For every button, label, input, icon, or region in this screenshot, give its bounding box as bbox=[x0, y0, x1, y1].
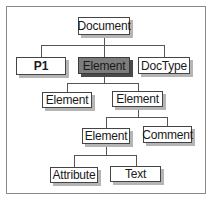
node-p1: P1 bbox=[16, 57, 66, 75]
node-element-highlighted: Element bbox=[78, 57, 130, 74]
node-element-level2-left: Element bbox=[42, 92, 92, 108]
node-text: Text bbox=[110, 166, 161, 182]
node-element-level2-right: Element bbox=[112, 91, 163, 107]
node-attribute: Attribute bbox=[50, 167, 98, 183]
node-element-level3: Element bbox=[82, 128, 130, 144]
node-document: Document bbox=[78, 17, 130, 35]
node-comment: Comment bbox=[143, 126, 192, 143]
node-doctype: DocType bbox=[138, 57, 190, 74]
